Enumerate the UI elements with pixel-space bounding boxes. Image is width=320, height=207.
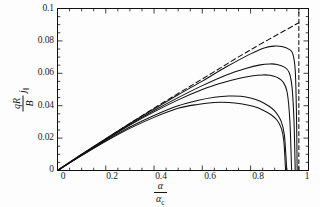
y-axis-numerator: qR xyxy=(12,96,23,111)
y-tick-label: 0 xyxy=(16,164,54,174)
x-tick-label: 0.2 xyxy=(100,171,124,181)
y-axis-title: qR B j‖ xyxy=(6,72,40,128)
y-tick-label: 0.1 xyxy=(16,3,54,13)
curve-curve-3 xyxy=(58,75,292,171)
x-axis-denominator: αc xyxy=(154,193,167,207)
x-axis-denominator-sub: c xyxy=(161,198,164,207)
y-axis-factor: j‖ xyxy=(16,88,30,93)
data-curves xyxy=(58,9,299,171)
x-tick-label: 0.8 xyxy=(246,171,270,181)
x-axis-fraction: α αc xyxy=(154,181,167,207)
curve-curve-5 xyxy=(58,102,286,170)
x-axis-title: α αc xyxy=(154,181,167,207)
figure-container: 0.1 0.08 0.06 0.04 0.02 0 0 0.2 0.4 0.6 … xyxy=(0,0,320,207)
x-tick-label: 1 xyxy=(295,171,319,181)
y-tick-label: 0.08 xyxy=(16,35,54,45)
y-axis-factor-symbol: j xyxy=(16,90,27,93)
curve-curve-2 xyxy=(58,64,296,171)
y-axis-denominator: B xyxy=(24,98,35,108)
x-axis-numerator: α xyxy=(156,181,165,192)
y-tick-label: 0.02 xyxy=(16,132,54,142)
curve-curve-4 xyxy=(58,96,287,171)
y-axis-fraction: qR B xyxy=(12,96,35,111)
y-axis-factor-sub: ‖ xyxy=(21,88,30,90)
x-tick-label: 0 xyxy=(51,171,75,181)
x-tick-label: 0.6 xyxy=(198,171,222,181)
